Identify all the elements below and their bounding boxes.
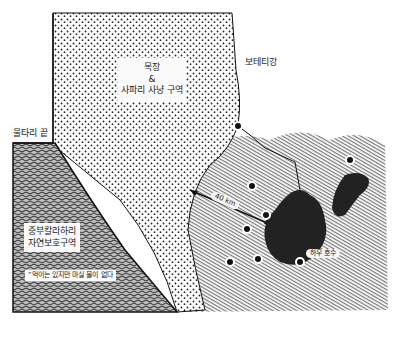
water-point — [234, 122, 242, 130]
fence-line — [13, 13, 53, 143]
lake-label: 하우 호수 — [306, 249, 340, 258]
reserve-label: 중부칼라하리 자연보호구역 — [24, 223, 80, 252]
water-point — [254, 255, 262, 263]
map-canvas — [0, 0, 395, 344]
water-point — [243, 225, 251, 233]
river-label: 보테티강 — [245, 57, 277, 69]
water-point — [296, 258, 304, 266]
water-point — [226, 258, 234, 266]
water-point — [346, 156, 354, 164]
water-point — [248, 182, 256, 190]
reserve-note-label: “먹이는 있지만 마실 물이 없다 — [25, 270, 116, 281]
ranch-safari-label: 목장 & 사파리 사냥 구역 — [118, 58, 186, 101]
fence-end-label: 울타리 끝 — [10, 127, 51, 141]
water-point — [262, 211, 270, 219]
